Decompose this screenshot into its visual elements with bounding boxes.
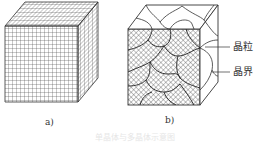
figure-caption: 单晶体与多晶体示意图 [95, 134, 175, 142]
single-crystal-cube [5, 2, 98, 102]
panel-a-label: a) [45, 118, 54, 127]
polycrystal-cube [128, 5, 230, 105]
grain-boundary-label: 晶界 [233, 67, 253, 77]
crystal-diagram [0, 0, 261, 144]
panel-b-label: b) [165, 116, 174, 125]
grain-label: 晶粒 [233, 42, 253, 52]
